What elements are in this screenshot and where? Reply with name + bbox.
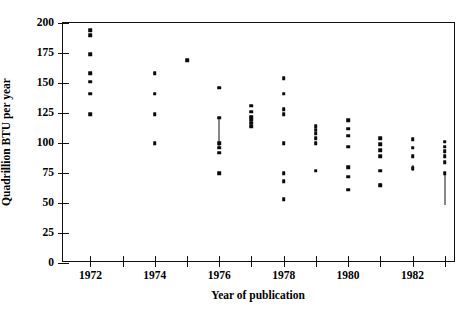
data-point — [282, 112, 286, 116]
data-point — [153, 141, 157, 145]
data-point — [282, 108, 286, 112]
x-axis-tick — [380, 256, 381, 267]
data-point — [379, 169, 383, 173]
x-axis-tick-label: 1978 — [272, 270, 295, 282]
data-point — [89, 33, 93, 37]
x-axis-tick — [348, 256, 349, 267]
data-point — [346, 134, 350, 138]
data-point — [89, 52, 93, 56]
data-point — [217, 116, 221, 120]
y-axis-tick-label: 25 — [43, 227, 55, 239]
data-point — [411, 166, 415, 170]
data-point — [443, 171, 447, 175]
data-point — [153, 72, 157, 76]
y-axis-tick — [58, 263, 69, 264]
x-axis-tick-label: 1982 — [401, 270, 424, 282]
data-point — [250, 104, 254, 108]
y-axis-tick-label: 100 — [37, 137, 54, 149]
x-axis-tick — [445, 256, 446, 267]
y-axis-tick-label: 200 — [37, 17, 54, 29]
y-axis-tick-label: 125 — [37, 107, 54, 119]
data-point — [89, 112, 93, 116]
data-point — [346, 175, 350, 179]
x-axis-tick-label: 1974 — [143, 270, 166, 282]
error-bar — [444, 174, 445, 205]
data-point — [346, 118, 350, 122]
y-axis-tick — [58, 233, 69, 234]
data-point — [443, 140, 447, 144]
y-axis-tick — [58, 23, 69, 24]
plot-area: 0255075100125150175200197219741976197819… — [62, 22, 455, 262]
data-point — [443, 145, 447, 149]
data-point — [89, 80, 93, 84]
data-point — [89, 72, 93, 76]
data-point — [153, 92, 157, 96]
y-axis-label: Quadrillion BTU per year — [0, 78, 12, 206]
data-point — [314, 169, 318, 173]
data-point — [217, 171, 221, 175]
data-point — [379, 154, 383, 158]
data-point — [282, 171, 286, 175]
data-point — [89, 28, 93, 32]
x-axis-label: Year of publication — [211, 289, 305, 301]
data-point — [346, 127, 350, 131]
data-point — [185, 58, 189, 62]
x-axis-tick — [123, 256, 124, 267]
data-point — [314, 136, 318, 140]
y-axis-tick-label: 75 — [43, 167, 55, 179]
data-point — [282, 76, 286, 80]
y-axis-tick-label: 50 — [43, 197, 55, 209]
y-axis-tick — [58, 113, 69, 114]
data-point — [443, 154, 447, 158]
data-point — [346, 165, 350, 169]
data-point — [89, 92, 93, 96]
data-point — [282, 141, 286, 145]
data-point — [250, 110, 254, 114]
data-point — [217, 151, 221, 155]
y-axis-tick — [58, 83, 69, 84]
data-point — [346, 188, 350, 192]
data-point — [411, 138, 415, 142]
y-axis-tick — [58, 203, 69, 204]
data-point — [282, 92, 286, 96]
x-axis-tick — [90, 256, 91, 267]
scatter-chart-figure: Quadrillion BTU per year Year of publica… — [0, 0, 473, 324]
x-axis-tick — [219, 256, 220, 267]
data-point — [282, 180, 286, 184]
data-point — [314, 132, 318, 136]
data-point — [250, 124, 254, 128]
x-axis-tick-label: 1980 — [337, 270, 360, 282]
data-point — [282, 198, 286, 202]
y-axis-tick-label: 150 — [37, 77, 54, 89]
data-point — [379, 136, 383, 140]
data-point — [443, 150, 447, 154]
data-point — [217, 146, 221, 150]
data-point — [217, 141, 221, 145]
data-point — [217, 86, 221, 90]
data-point — [379, 148, 383, 152]
x-axis-tick-label: 1976 — [208, 270, 231, 282]
y-axis-tick-label: 0 — [48, 257, 54, 269]
x-axis-tick — [316, 256, 317, 267]
x-axis-tick — [284, 256, 285, 267]
y-axis-tick — [58, 53, 69, 54]
x-axis-tick — [413, 256, 414, 267]
data-point — [153, 112, 157, 116]
y-axis-tick — [58, 173, 69, 174]
data-point — [346, 145, 350, 149]
data-point — [314, 141, 318, 145]
data-point — [379, 142, 383, 146]
data-point — [443, 160, 447, 164]
x-axis-tick — [187, 256, 188, 267]
y-axis-tick-label: 175 — [37, 47, 54, 59]
x-axis-tick-label: 1972 — [79, 270, 102, 282]
data-point — [411, 154, 415, 158]
data-point — [379, 183, 383, 187]
y-axis-tick — [58, 143, 69, 144]
data-point — [411, 146, 415, 150]
x-axis-tick — [155, 256, 156, 267]
x-axis-tick — [251, 256, 252, 267]
